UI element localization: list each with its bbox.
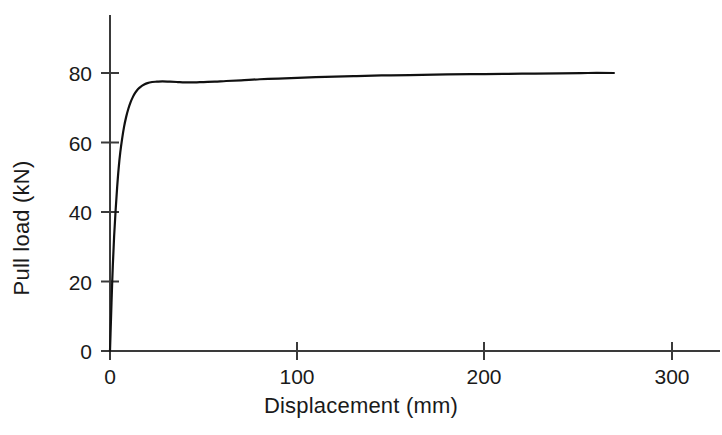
x-tick-label-300: 300 bbox=[654, 366, 689, 387]
y-tick-label-60: 60 bbox=[52, 132, 92, 153]
x-tick-label-0: 0 bbox=[104, 366, 116, 387]
chart-figure: 0 20 40 60 80 0 100 200 300 Displacement… bbox=[0, 0, 722, 435]
x-tick-label-100: 100 bbox=[279, 366, 314, 387]
x-tick-label-200: 200 bbox=[466, 366, 501, 387]
y-tick-label-80: 80 bbox=[52, 63, 92, 84]
y-tick-label-20: 20 bbox=[52, 271, 92, 292]
y-tick-label-40: 40 bbox=[52, 202, 92, 223]
data-series-line bbox=[110, 73, 614, 351]
y-tick-label-0: 0 bbox=[52, 341, 92, 362]
axis-lines bbox=[110, 15, 720, 351]
x-axis-label: Displacement (mm) bbox=[0, 393, 722, 419]
y-axis-label: Pull load (kN) bbox=[9, 128, 35, 328]
